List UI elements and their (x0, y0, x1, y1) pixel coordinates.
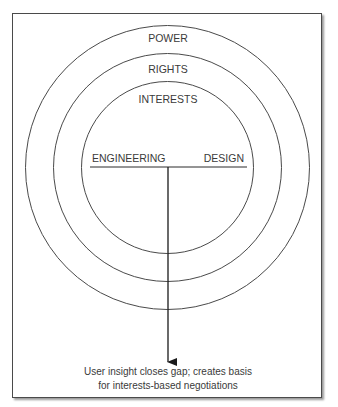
ring-label-interests: INTERESTS (139, 93, 198, 105)
concentric-diagram: POWER RIGHTS INTERESTS ENGINEERING DESIG… (0, 0, 338, 407)
caption-line-1: User insight closes gap; creates basis (84, 366, 252, 377)
caption-line-2: for interests-based negotiations (98, 380, 238, 391)
ring-label-rights: RIGHTS (148, 63, 188, 75)
ring-label-power: POWER (148, 32, 188, 44)
label-engineering: ENGINEERING (92, 152, 166, 164)
label-design: DESIGN (204, 152, 244, 164)
